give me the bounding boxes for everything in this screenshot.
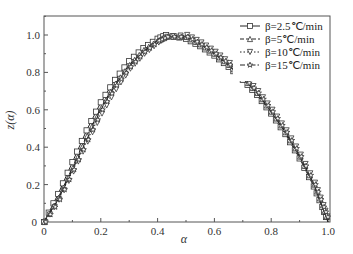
x-axis-label: α [181, 232, 188, 246]
legend-label: β=15℃/min [265, 59, 320, 71]
y-tick-label: 0.8 [26, 66, 40, 78]
legend: β=2.5℃/min β=5℃/min β=10℃/min β=15℃/min [233, 19, 327, 81]
x-tick-label: 0.4 [151, 225, 165, 237]
y-tick-label: 0.6 [26, 104, 40, 116]
x-tick-label: 0.6 [208, 225, 222, 237]
x-tick-label: 0.2 [94, 225, 108, 237]
y-tick-label: 0.2 [26, 179, 40, 191]
legend-label: β=10℃/min [265, 46, 320, 58]
x-axis-ticks: 00.20.40.60.81.0 [41, 218, 335, 237]
y-axis-label: z(α) [3, 111, 17, 131]
x-tick-label: 0 [41, 225, 47, 237]
y-axis-ticks: 00.20.40.60.81.0 [26, 16, 48, 228]
legend-label: β=2.5℃/min [265, 20, 323, 32]
x-tick-label: 1.0 [321, 225, 335, 237]
legend-label: β=5℃/min [265, 33, 315, 45]
y-tick-label: 0 [32, 216, 38, 228]
z-alpha-chart: 00.20.40.60.81.0 00.20.40.60.81.0 α z(α)… [0, 0, 353, 254]
y-tick-label: 0.4 [26, 141, 40, 153]
y-tick-label: 1.0 [26, 29, 40, 41]
x-tick-label: 0.8 [264, 225, 278, 237]
